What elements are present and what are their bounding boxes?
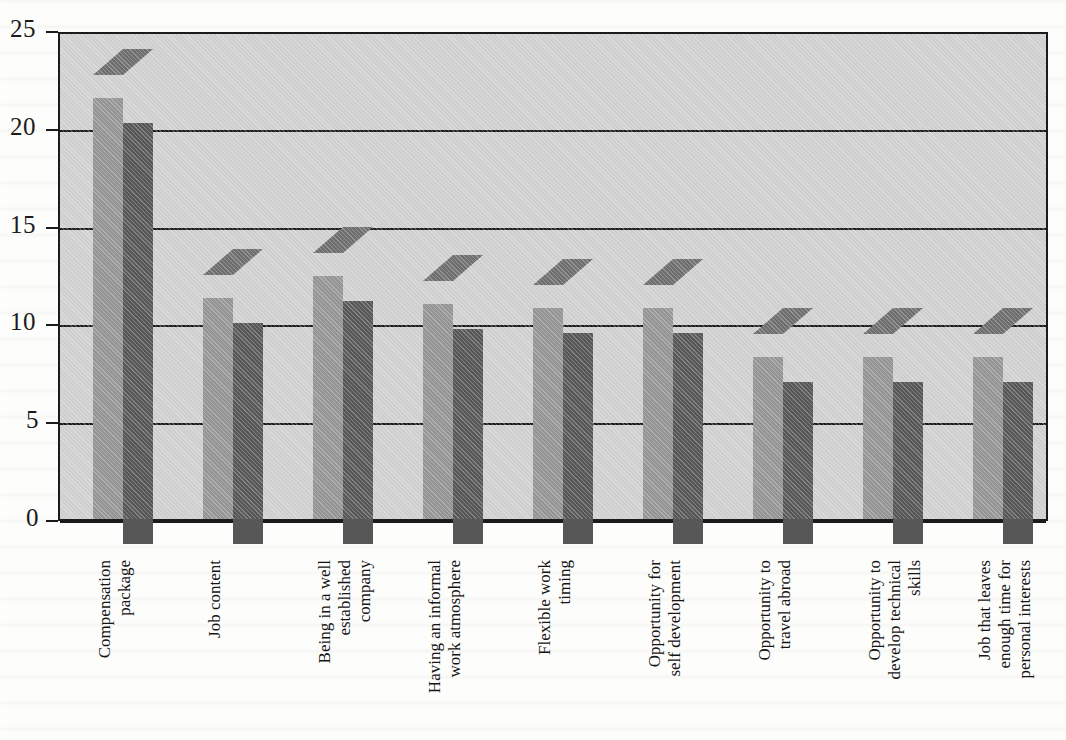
category-label-line: self development bbox=[665, 560, 685, 730]
bar-top-face bbox=[643, 259, 703, 284]
category-label-line: company bbox=[355, 560, 375, 730]
category-label-line: Flexible work bbox=[535, 560, 555, 730]
bar-side-face bbox=[863, 357, 893, 519]
bar-front-face bbox=[563, 333, 593, 544]
y-axis-tick bbox=[46, 324, 58, 326]
bar-top-face bbox=[753, 308, 813, 333]
category-label-line: work atmosphere bbox=[445, 560, 465, 730]
category-label-line: Compensation bbox=[95, 560, 115, 730]
category-label-line: Opportunity for bbox=[645, 560, 665, 730]
bar-top-face bbox=[203, 249, 263, 274]
gridline bbox=[60, 228, 1046, 230]
bar-side-face bbox=[313, 276, 343, 519]
x-axis-category-label: Opportunity todevelop technicalskills bbox=[865, 560, 925, 730]
bar-top-face bbox=[973, 308, 1033, 333]
y-axis-tick-label: 5 bbox=[26, 406, 48, 434]
category-label-line: established bbox=[335, 560, 355, 730]
bar bbox=[643, 283, 703, 519]
y-axis-tick bbox=[46, 227, 58, 229]
y-axis-tick-label: 20 bbox=[10, 113, 48, 141]
x-axis-category-label: Flexible worktiming bbox=[535, 560, 575, 730]
bar-top-face bbox=[533, 259, 593, 284]
category-label-line: Job that leaves bbox=[975, 560, 995, 730]
bar-front-face bbox=[1003, 382, 1033, 544]
bar-side-face bbox=[973, 357, 1003, 519]
category-label-line: skills bbox=[905, 560, 925, 730]
bar-front-face bbox=[453, 329, 483, 544]
y-axis-tick bbox=[46, 31, 58, 33]
bar-side-face bbox=[93, 98, 123, 519]
y-axis-tick-label: 0 bbox=[26, 504, 48, 532]
category-label-line: Having an informal bbox=[425, 560, 445, 730]
x-axis-category-label: Compensationpackage bbox=[95, 560, 135, 730]
y-axis-tick-label: 15 bbox=[10, 211, 48, 239]
x-axis-category-label: Having an informalwork atmosphere bbox=[425, 560, 465, 730]
bar-top-face bbox=[863, 308, 923, 333]
bar-chart: 0510152025 CompensationpackageJob conten… bbox=[0, 0, 1066, 740]
y-axis-tick bbox=[46, 129, 58, 131]
bar-front-face bbox=[893, 382, 923, 544]
bar bbox=[973, 332, 1033, 519]
category-label-line: enough time for bbox=[995, 560, 1015, 730]
bar-front-face bbox=[123, 123, 153, 544]
category-label-line: Job content bbox=[205, 560, 225, 730]
y-axis-tick-label: 10 bbox=[10, 308, 48, 336]
bar-side-face bbox=[753, 357, 783, 519]
bar-top-face bbox=[313, 227, 373, 252]
bar bbox=[863, 332, 923, 519]
bar-side-face bbox=[203, 298, 233, 519]
x-axis-category-label: Opportunity totravel abroad bbox=[755, 560, 795, 730]
bar-front-face bbox=[783, 382, 813, 544]
y-axis-tick bbox=[46, 520, 58, 522]
bar bbox=[423, 279, 483, 519]
bar-side-face bbox=[533, 308, 563, 519]
category-label-line: Opportunity to bbox=[865, 560, 885, 730]
y-axis-tick bbox=[46, 422, 58, 424]
bar-front-face bbox=[343, 301, 373, 544]
bar bbox=[533, 283, 593, 519]
category-label-line: package bbox=[115, 560, 135, 730]
y-axis-tick-label: 25 bbox=[10, 15, 48, 43]
category-label-line: timing bbox=[555, 560, 575, 730]
plot-area bbox=[58, 32, 1048, 521]
gridline bbox=[60, 130, 1046, 132]
bar-front-face bbox=[673, 333, 703, 544]
x-axis-category-label: Job that leavesenough time forpersonal i… bbox=[975, 560, 1035, 730]
bar-side-face bbox=[423, 304, 453, 519]
bar-front-face bbox=[233, 323, 263, 544]
bar bbox=[93, 73, 153, 519]
bar-top-face bbox=[423, 255, 483, 280]
category-label-line: Opportunity to bbox=[755, 560, 775, 730]
bar bbox=[753, 332, 813, 519]
x-axis-category-label: Being in a wellestablishedcompany bbox=[315, 560, 375, 730]
bar-side-face bbox=[643, 308, 673, 519]
x-axis-category-label: Opportunity forself development bbox=[645, 560, 685, 730]
category-label-line: travel abroad bbox=[775, 560, 795, 730]
x-axis-category-label: Job content bbox=[205, 560, 225, 730]
bar bbox=[203, 273, 263, 519]
category-label-line: personal interests bbox=[1015, 560, 1035, 730]
category-label-line: Being in a well bbox=[315, 560, 335, 730]
bar bbox=[313, 251, 373, 519]
category-label-line: develop technical bbox=[885, 560, 905, 730]
bar-top-face bbox=[93, 49, 153, 74]
